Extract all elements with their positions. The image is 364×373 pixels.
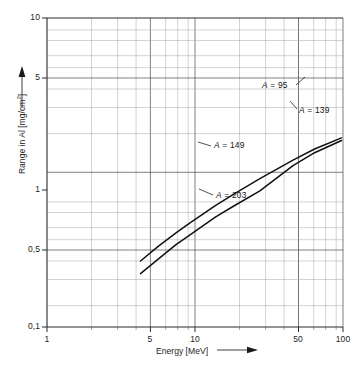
right-arrow-icon [216, 344, 260, 356]
annotation-a-203-eq: = [224, 190, 229, 200]
up-arrow-icon [16, 62, 28, 110]
annotation-a-95-value: 95 [278, 80, 288, 90]
y-tick-label-0-1: 0,1 [14, 322, 40, 331]
y-tick-label-10: 10 [18, 13, 40, 22]
y-axis-title-text: Range in Al [mg/cm [17, 100, 27, 175]
annotation-a-149-eq: = [222, 140, 227, 150]
annotation-a-203-symbol: A [216, 190, 222, 200]
annotation-a-203-value: 203 [232, 190, 247, 200]
annotation-a-139-symbol: A [299, 105, 305, 115]
annotation-a-95-eq: = [270, 80, 275, 90]
x-axis-title: Energy [MeV] [156, 346, 208, 356]
annotation-a-203: A = 203 [216, 190, 247, 200]
leader-a-139 [290, 101, 297, 109]
annotation-a-139: A = 139 [299, 105, 330, 115]
annotation-leaders [198, 77, 305, 195]
annotation-a-149-symbol: A [214, 140, 220, 150]
plot-canvas [0, 0, 364, 373]
x-tick-label-5: 5 [140, 335, 160, 344]
annotation-a-149-value: 149 [230, 140, 245, 150]
x-tick-label-100: 100 [331, 335, 355, 344]
annotation-a-149: A = 149 [214, 140, 245, 150]
x-tick-label-50: 50 [288, 335, 308, 344]
annotation-a-139-eq: = [307, 105, 312, 115]
annotation-a-95-symbol: A [262, 80, 268, 90]
curve-a139-a203 [141, 141, 342, 274]
figure-log-log-range-vs-energy: 10 5 1 0,5 0,1 1 5 10 50 100 Range in Al… [0, 0, 364, 373]
leader-a-203 [199, 189, 213, 195]
x-tick-label-10: 10 [185, 335, 205, 344]
annotation-a-95: A = 95 [262, 80, 288, 90]
y-axis-ticks [42, 18, 47, 327]
annotation-a-139-value: 139 [315, 105, 330, 115]
y-tick-label-0-5: 0,5 [14, 245, 40, 254]
leader-a-149 [198, 142, 211, 146]
x-tick-label-1: 1 [37, 335, 57, 344]
